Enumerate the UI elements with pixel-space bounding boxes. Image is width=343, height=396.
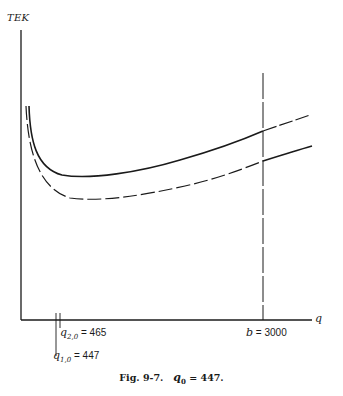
q20-annotation: q2,0 = 465 (60, 326, 106, 341)
caption-sub: 0 (181, 377, 186, 386)
b-value: = 3000 (256, 327, 287, 338)
q10-sub: 1,0 (60, 356, 71, 364)
caption-eq: = 447. (189, 372, 223, 383)
q10-annotation: q1,0 = 447 (53, 349, 99, 364)
x-axis-label: q (315, 312, 322, 325)
lower-curve-solid (263, 146, 312, 161)
figure-caption: Fig. 9-7. q0 = 447. (0, 371, 343, 386)
upper-curve-dashed (263, 115, 310, 131)
y-axis-label: TEK (7, 12, 29, 23)
b-var: b (246, 326, 253, 339)
lower-curve-dashed (26, 106, 263, 199)
caption-fig: Fig. 9-7. (119, 372, 163, 383)
caption-var: q (173, 371, 181, 384)
q20-sub: 2,0 (67, 333, 78, 341)
q20-value: = 465 (81, 327, 106, 338)
q10-value: = 447 (74, 350, 99, 361)
b-annotation: b = 3000 (246, 326, 287, 339)
upper-curve-solid (29, 106, 263, 177)
chart-canvas (0, 0, 343, 396)
q10-var: q (53, 349, 60, 362)
q20-var: q (60, 326, 67, 339)
